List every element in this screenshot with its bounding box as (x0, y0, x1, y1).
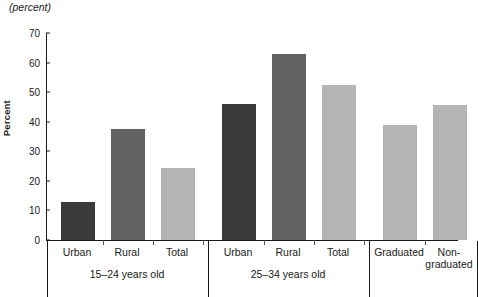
x-axis-category-label: Rural (102, 246, 152, 258)
plot-area: 010203040506070 (46, 33, 458, 240)
category-label-band: UrbanRuralTotalUrbanRuralTotalGraduatedN… (46, 241, 458, 297)
x-axis-category-label: Graduated (374, 246, 424, 258)
bar (61, 202, 95, 240)
group-separator (208, 241, 209, 297)
y-axis-tick-label: 50 (0, 87, 46, 98)
y-axis-tick-label: 60 (0, 57, 46, 68)
x-axis-category-label: Rural (263, 246, 313, 258)
x-axis-category-label: Non- graduated (424, 246, 474, 270)
bar (161, 168, 195, 240)
unit-note: (percent) (9, 1, 51, 13)
group-caption: 15–24 years old (52, 268, 202, 280)
bar (272, 54, 306, 240)
bar (111, 129, 145, 240)
bar-series (47, 33, 458, 240)
group-separator (47, 241, 48, 297)
y-axis-tick-label: 10 (0, 205, 46, 216)
y-axis-tick-label: 40 (0, 116, 46, 127)
x-axis-category-label: Urban (213, 246, 263, 258)
y-axis-tick-label: 0 (0, 235, 46, 246)
x-axis-category-label: Total (313, 246, 363, 258)
x-axis-category-label: Total (152, 246, 202, 258)
bar (222, 104, 256, 240)
y-axis-tick-label: 30 (0, 146, 46, 157)
bar (322, 85, 356, 240)
y-axis-tick-label: 20 (0, 175, 46, 186)
bar (383, 125, 417, 240)
group-caption: 25–34 years old (213, 268, 363, 280)
x-axis-category-label: Urban (52, 246, 102, 258)
bar (433, 105, 467, 240)
group-separator (369, 241, 370, 297)
y-axis-tick-label: 70 (0, 28, 46, 39)
